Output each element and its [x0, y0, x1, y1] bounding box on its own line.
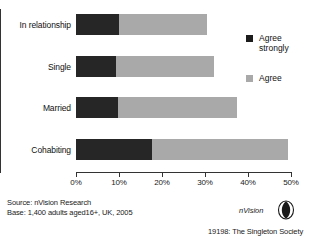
bar-segment[interactable]: [118, 97, 237, 118]
bar-row[interactable]: [76, 97, 291, 118]
bar-row[interactable]: [76, 139, 291, 160]
category-label: Single: [0, 62, 71, 72]
nvision-logo-icon: [277, 200, 295, 220]
brand-label: nVision: [239, 206, 263, 215]
legend-swatch-icon-agree-strongly: [246, 35, 253, 42]
category-label: Cohabiting: [0, 145, 71, 155]
legend-item-agree[interactable]: Agree: [246, 73, 324, 83]
source-line-2: Base: 1,400 adults aged16+, UK, 2005: [7, 208, 132, 218]
category-label: In relationship: [0, 20, 71, 30]
legend-swatch-icon-agree: [246, 75, 253, 82]
bar-segment[interactable]: [152, 139, 288, 160]
source-note: Source: nVision Research Base: 1,400 adu…: [7, 198, 132, 218]
x-axis-tick: [291, 173, 292, 177]
bar-segment[interactable]: [119, 14, 207, 35]
x-axis-tick: [119, 173, 120, 177]
legend-item-agree-strongly[interactable]: Agree strongly: [246, 33, 324, 53]
bar-segment[interactable]: [76, 139, 152, 160]
report-code-label: 19198: The Singleton Society: [208, 227, 303, 236]
x-axis-tick-label: 0%: [61, 178, 91, 187]
bar-segment[interactable]: [76, 56, 116, 77]
x-axis-tick: [162, 173, 163, 177]
category-label: Married: [0, 103, 71, 113]
x-axis-tick-label: 30%: [190, 178, 220, 187]
x-axis-tick-label: 40%: [233, 178, 263, 187]
chart-figure: 0%10%20%30%40%50% In relationshipSingleM…: [0, 0, 326, 242]
bar-row[interactable]: [76, 14, 291, 35]
x-axis-line: [76, 172, 292, 173]
x-axis-tick: [76, 173, 77, 177]
x-axis-tick: [205, 173, 206, 177]
x-axis-tick-label: 50%: [276, 178, 306, 187]
legend-label-agree-strongly: Agree strongly: [259, 33, 324, 53]
x-axis-tick-label: 20%: [147, 178, 177, 187]
legend: Agree strongly Agree: [246, 33, 324, 97]
source-line-1: Source: nVision Research: [7, 198, 132, 208]
legend-label-agree: Agree: [259, 73, 324, 83]
x-axis-tick: [248, 173, 249, 177]
bar-segment[interactable]: [116, 56, 214, 77]
x-axis-tick-label: 10%: [104, 178, 134, 187]
bar-segment[interactable]: [76, 97, 118, 118]
bar-segment[interactable]: [76, 14, 119, 35]
